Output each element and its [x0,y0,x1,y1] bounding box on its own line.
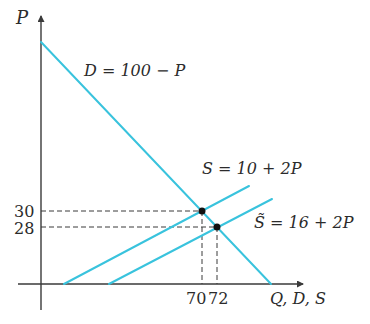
supply-label: S = 10 + 2P [202,159,302,178]
demand-label: D = 100 − P [83,61,186,80]
equilibrium-point-2 [214,224,221,231]
equilibrium-point-1 [199,208,206,215]
tick-label-70: 70 [186,289,206,308]
tick-label-28: 28 [14,219,34,238]
supply-curve [64,186,249,284]
y-axis-label: P [15,7,29,28]
supply-demand-diagram: P Q, D, S D = 100 − P S = 10 + 2P S̃ = 1… [0,0,370,324]
tick-label-72: 72 [208,289,228,308]
supply-tilde-curve [109,199,272,284]
supply-tilde-label: S̃ = 16 + 2P [254,213,354,232]
x-axis-label: Q, D, S [270,289,326,308]
